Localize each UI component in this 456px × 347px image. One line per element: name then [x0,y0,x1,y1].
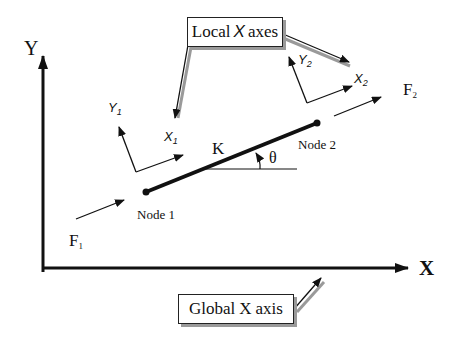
local-x1-label: X1 [164,130,178,146]
force-f1-arrow [76,200,124,219]
stiffness-label: K [212,140,224,157]
global-callout-axis: X [239,299,251,319]
force-f1-label: F1 [69,232,83,251]
local-callout-suffix: axes [248,22,278,42]
node-1-point [143,189,150,196]
node-2-label: Node 2 [298,138,336,151]
local-callout-pointer-x2 [283,34,350,66]
global-callout-pointer [294,278,324,312]
local-callout-prefix: Local [192,22,231,42]
local-y1-label: Y1 [108,101,122,117]
local-callout-axis: X [234,22,245,42]
local-x-axes-callout: Local X axes [187,17,283,47]
force-f2-label: F2 [403,81,417,100]
local-y2-label: Y2 [298,53,312,69]
global-x-axis-callout: Global X axis [178,294,294,324]
node-1-label: Node 1 [137,208,175,221]
global-callout-suffix: axis [256,299,283,319]
local-callout-pointer-x1 [175,45,191,118]
angle-label: θ [269,150,277,166]
force-f2-arrow [334,97,381,116]
local-x2-label: X2 [354,72,368,88]
node-2-point [314,120,321,127]
global-x-label: X [419,258,434,279]
global-callout-prefix: Global [189,299,235,319]
global-y-label: Y [24,38,38,58]
